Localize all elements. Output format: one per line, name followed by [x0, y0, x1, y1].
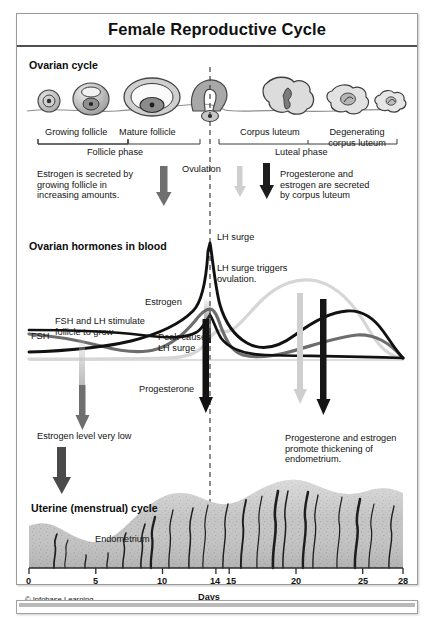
ovarian-stage-label-0: Growing follicle — [45, 127, 107, 138]
axis-tick-0: 0 — [26, 576, 31, 587]
annotation-estrogen-very-low: Estrogen level very low — [37, 431, 131, 442]
arrow-progesterone-light — [234, 166, 246, 197]
annotation-lh-surge: LH surge — [217, 232, 254, 243]
ovarian-stage-label-2: Corpus luteum — [240, 127, 300, 138]
illustration-mature-follicle — [124, 78, 180, 116]
axis-tick-7: 28 — [398, 576, 408, 587]
annotation-estrogen-secreted: Estrogen is secreted by growing follicle… — [37, 169, 133, 201]
curve-label-fsh: FSH — [31, 331, 49, 342]
axis-tick-3: 14 — [210, 576, 220, 587]
illustration-ovulation — [192, 80, 228, 122]
curve-label-estrogen: Estrogen — [145, 297, 182, 308]
phase-label-ovulation: Ovulation — [182, 164, 221, 175]
axis-ticks — [29, 568, 403, 574]
annotation-lh-surge-triggers: LH surge triggers ovulation. — [217, 263, 287, 284]
arrow-to-uterine-cycle — [53, 447, 72, 494]
curve-label-progesterone: Progesterone — [139, 384, 194, 395]
illustration-growing-follicle-small — [38, 90, 60, 112]
axis-tick-4: 15 — [226, 576, 236, 587]
ovarian-stage-label-1: Mature follicle — [119, 127, 176, 138]
illustration-corpus-luteum — [263, 77, 313, 114]
title-bar: Female Reproductive Cycle — [17, 14, 417, 47]
illustration-degenerating-corpus-luteum-2 — [375, 91, 406, 113]
bottom-strip-fill — [19, 603, 415, 607]
illustration-degenerating-corpus-luteum-1 — [327, 85, 369, 114]
diagram-root: Female Reproductive Cycle Ovarian cycle — [0, 0, 435, 621]
section-heading-uterine-cycle: Uterine (menstrual) cycle — [31, 502, 158, 514]
axis-tick-6: 25 — [358, 576, 368, 587]
illustration-endometrium — [29, 480, 403, 568]
annotation-fsh-lh-stimulate: FSH and LH stimulate follicle to grow — [55, 316, 145, 337]
diagram-stage: Ovarian cycle — [17, 47, 417, 584]
axis-tick-2: 10 — [157, 576, 167, 587]
arrow-progesterone-dark — [260, 163, 275, 199]
annotation-progesterone-estrogen-thicken: Progesterone and estrogen promote thicke… — [285, 433, 396, 465]
phase-label-follicle: Follicle phase — [87, 147, 143, 158]
arrow-estrogen-secreted — [156, 166, 172, 206]
main-panel: Female Reproductive Cycle Ovarian cycle — [16, 13, 418, 585]
annotation-peak-causes: Peak causes LH surge — [158, 332, 211, 353]
annotation-progesterone-secreted: Progesterone and estrogen are secreted b… — [280, 169, 369, 201]
bottom-strip — [16, 600, 418, 614]
illustration-growing-follicle-large — [73, 83, 109, 115]
axis-tick-1: 5 — [93, 576, 98, 587]
gradient-bar-left — [79, 333, 85, 389]
phase-label-luteal: Luteal phase — [275, 147, 328, 158]
ovarian-stage-label-3: Degenerating corpus luteum — [313, 127, 401, 148]
section-heading-ovarian-hormones: Ovarian hormones in blood — [29, 240, 167, 252]
page-title: Female Reproductive Cycle — [108, 20, 326, 39]
curve-label-endometrium: Endometrium — [95, 534, 150, 545]
axis-tick-5: 20 — [291, 576, 301, 587]
arrow-estrogen-very-low — [76, 385, 90, 430]
